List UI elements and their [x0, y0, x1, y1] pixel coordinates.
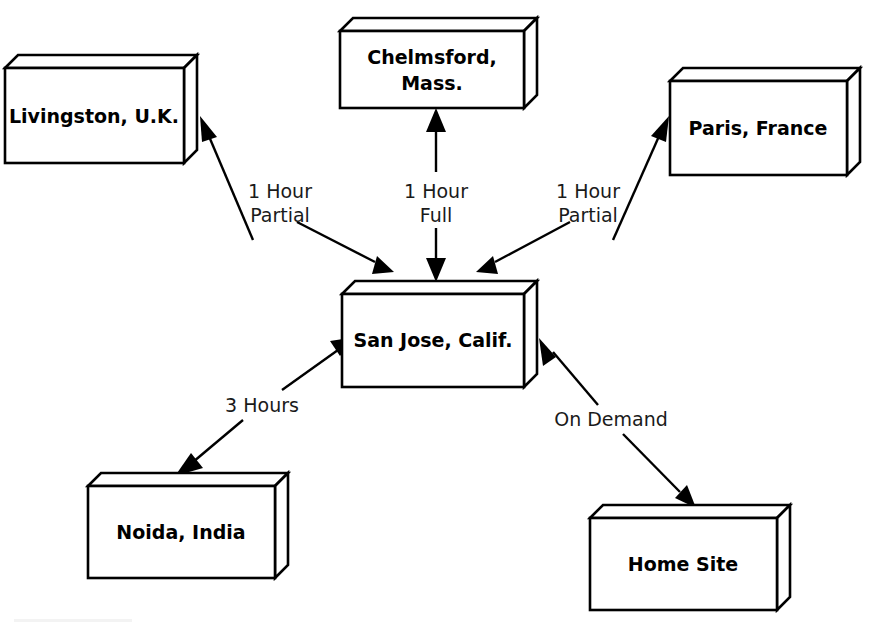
noida-top-face: [88, 473, 288, 486]
arrowhead-to-sanjose-from-paris: [476, 256, 498, 274]
node-home-site[interactable]: Home Site: [590, 505, 790, 610]
scan-artifact-mark: [14, 619, 132, 622]
edge-segment-to-livingston: [208, 134, 253, 240]
arrowhead-to-sanjose-from-chelmsford: [426, 258, 446, 282]
home-site-side-face: [777, 505, 790, 610]
edge-segment-to-sanjose-from-paris: [495, 222, 570, 262]
edge-label-paris-line2: Partial: [558, 204, 618, 226]
arrowhead-to-chelmsford: [426, 108, 446, 132]
chelmsford-top-face: [340, 18, 537, 31]
edge-label-paris-line1: 1 Hour: [556, 180, 620, 202]
edge-segment-to-sanjose-from-livingston: [297, 222, 375, 262]
san-jose-side-face: [524, 281, 537, 387]
noida-side-face: [275, 473, 288, 578]
livingston-top-face: [5, 55, 197, 68]
node-san-jose[interactable]: San Jose, Calif.: [342, 281, 537, 387]
paris-label: Paris, France: [689, 117, 828, 139]
edge-label-livingston-line2: Partial: [250, 204, 310, 226]
paris-top-face: [670, 68, 860, 81]
livingston-label: Livingston, U.K.: [9, 105, 179, 127]
san-jose-top-face: [342, 281, 537, 294]
paris-side-face: [847, 68, 860, 175]
node-chelmsford[interactable]: Chelmsford, Mass.: [340, 18, 537, 108]
edge-homesite-sanjose: On Demand: [539, 338, 696, 508]
edge-segment-to-sanjose-from-homesite: [553, 352, 598, 405]
edge-paris-sanjose: 1 Hour Partial: [476, 116, 669, 274]
home-site-label: Home Site: [628, 553, 738, 575]
chelmsford-front-face: [340, 31, 524, 108]
edge-segment-to-sanjose-from-noida: [282, 350, 338, 390]
edge-noida-sanjose: 3 Hours: [175, 337, 356, 476]
edge-chelmsford-sanjose: 1 Hour Full: [404, 108, 468, 282]
edge-label-noida: 3 Hours: [225, 394, 299, 416]
arrowhead-to-livingston: [200, 116, 217, 142]
node-noida[interactable]: Noida, India: [88, 473, 288, 578]
edge-segment-to-noida: [193, 420, 243, 462]
home-site-top-face: [590, 505, 790, 518]
chelmsford-label-line1: Chelmsford,: [367, 46, 496, 68]
replication-topology-diagram: 1 Hour Partial 1 Hour Full 1 Hour Partia…: [0, 0, 874, 630]
edge-label-chelmsford-line1: 1 Hour: [404, 180, 468, 202]
edge-label-chelmsford-line2: Full: [420, 204, 453, 226]
node-livingston[interactable]: Livingston, U.K.: [5, 55, 197, 163]
scan-artifact: [14, 619, 132, 622]
edge-livingston-sanjose: 1 Hour Partial: [200, 116, 394, 274]
arrowhead-to-sanjose-from-livingston: [372, 256, 394, 274]
chelmsford-label-line2: Mass.: [401, 72, 463, 94]
edge-segment-to-homesite: [623, 434, 680, 492]
edge-label-livingston-line1: 1 Hour: [248, 180, 312, 202]
diagram-canvas: 1 Hour Partial 1 Hour Full 1 Hour Partia…: [0, 0, 874, 630]
noida-label: Noida, India: [116, 521, 245, 543]
chelmsford-side-face: [524, 18, 537, 108]
arrowhead-to-paris: [651, 116, 669, 142]
san-jose-label: San Jose, Calif.: [353, 329, 512, 351]
edge-segment-to-paris: [613, 134, 660, 240]
node-paris[interactable]: Paris, France: [670, 68, 860, 175]
edge-label-homesite: On Demand: [554, 408, 668, 430]
livingston-side-face: [184, 55, 197, 163]
